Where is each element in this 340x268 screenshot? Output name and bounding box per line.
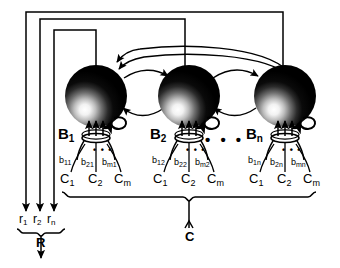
block-label-1: B1: [58, 126, 74, 144]
input-label-2-c1: C1: [153, 172, 167, 188]
output-label-r1: r1: [19, 213, 27, 227]
input-ellipsis-2: • • •: [186, 146, 205, 155]
input-label-2-cm: Cm: [207, 172, 224, 188]
block-label-n: Bn: [246, 126, 263, 144]
input-ellipsis-1: • • •: [93, 146, 112, 155]
weight-label-2-1: b12: [152, 156, 165, 166]
weight-label-1-m: bm1: [102, 158, 117, 168]
arc-1-to-2: [124, 70, 168, 78]
node-block-2[interactable]: [158, 65, 220, 172]
weight-label-n-1: b1n: [248, 156, 261, 166]
weight-label-1-1: b11: [59, 156, 71, 166]
input-label-n-c2: C2: [277, 172, 291, 188]
diagram-canvas: [0, 0, 340, 268]
node-block-n[interactable]: [254, 65, 316, 172]
input-label-1-c2: C2: [88, 172, 102, 188]
output-bundle-label: R: [36, 236, 45, 249]
input-label-n-cm: Cm: [303, 172, 320, 188]
block-ellipsis: • • •: [205, 132, 244, 147]
output-label-rn: rn: [47, 213, 55, 227]
output-label-r2: r2: [33, 213, 41, 227]
block-label-2: B2: [150, 126, 166, 144]
weight-label-n-m: bmn: [291, 158, 306, 168]
input-label-1-cm: Cm: [114, 172, 131, 188]
arc-2-to-n: [213, 70, 258, 78]
input-label-1-c1: C1: [60, 172, 74, 188]
weight-label-2-m: bm2: [195, 158, 210, 168]
arc-n-to-2: [214, 108, 256, 116]
input-brace: [62, 192, 316, 228]
input-label-2-c2: C2: [181, 172, 195, 188]
node-block-1[interactable]: [65, 65, 127, 172]
input-bundle-label: C: [185, 230, 194, 243]
input-label-n-c1: C1: [249, 172, 263, 188]
weight-label-1-2: b21: [81, 158, 94, 168]
network-diagram: B1 • • • b11 b21 bm1 C1 C2 Cm B2 • • • b…: [0, 0, 340, 268]
arc-2-to-1: [123, 108, 164, 116]
input-ellipsis-n: • • •: [282, 146, 301, 155]
weight-label-n-2: b2n: [270, 158, 283, 168]
weight-label-2-2: b22: [174, 158, 187, 168]
